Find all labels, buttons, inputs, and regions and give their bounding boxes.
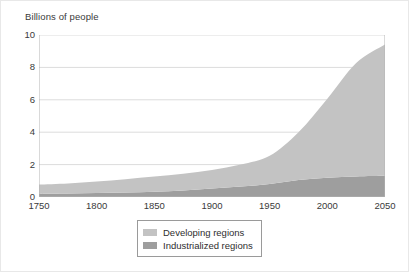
legend-item-industrialized: Industrialized regions bbox=[143, 239, 253, 251]
x-tick-1800: 1800 bbox=[86, 200, 107, 211]
x-tick-2000: 2000 bbox=[317, 200, 338, 211]
y-tick-10: 10 bbox=[24, 30, 35, 40]
legend-label-industrialized: Industrialized regions bbox=[163, 240, 253, 251]
x-tick-1750: 1750 bbox=[28, 200, 49, 211]
y-tick-6: 6 bbox=[30, 95, 35, 105]
x-tick-1950: 1950 bbox=[259, 200, 280, 211]
y-tick-4: 4 bbox=[30, 127, 35, 137]
legend-item-developing: Developing regions bbox=[143, 226, 253, 238]
x-tick-1900: 1900 bbox=[201, 200, 222, 211]
legend-swatch-industrialized bbox=[143, 242, 157, 249]
y-tick-2: 2 bbox=[30, 160, 35, 170]
y-tick-8: 8 bbox=[30, 62, 35, 72]
chart-legend: Developing regions Industrialized region… bbox=[137, 220, 262, 257]
legend-label-developing: Developing regions bbox=[163, 227, 244, 238]
plot-area bbox=[39, 35, 385, 197]
x-tick-1850: 1850 bbox=[144, 200, 165, 211]
x-tick-2050: 2050 bbox=[374, 200, 395, 211]
population-growth-chart: Billions of people 0246810 1750180018501… bbox=[0, 0, 409, 272]
y-axis-tick-labels: 0246810 bbox=[19, 35, 35, 197]
legend-swatch-developing bbox=[143, 229, 157, 236]
y-axis-label: Billions of people bbox=[25, 11, 99, 22]
x-axis-tick-labels: 1750180018501900195020002050 bbox=[39, 200, 385, 214]
area-chart-svg bbox=[39, 35, 385, 197]
